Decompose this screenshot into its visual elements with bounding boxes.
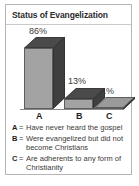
axis-label-a: A [36,111,43,121]
legend-equals-c: = [19,154,26,164]
bar-b-front-face [64,99,93,109]
legend-equals-b: = [19,134,26,144]
bar-a [24,48,53,109]
bar-chart: 86% 13% 1% A B C [6,25,131,119]
bar-value-label-a: 86% [29,26,47,36]
legend-item-a: A = Have never heard the gospel [12,123,130,133]
legend-text-a: Have never heard the gospel [26,123,130,133]
axis-label-b: B [76,111,83,121]
legend-key-b: B [12,134,19,144]
legend-key-c: C [12,154,19,164]
bar-value-label-b: 13% [68,76,86,86]
legend-item-c: C = Are adherents to any form of Christi… [12,154,130,173]
legend-equals-a: = [19,123,26,133]
legend-text-c: Are adherents to any form of Christianit… [26,154,130,173]
bar-b [64,99,93,109]
infographic-panel: Status of Evangelization 86% 13% 1% A B … [5,4,132,175]
legend-text-b: Were evangelized but did not become Chri… [26,134,130,153]
page-title: Status of Evangelization [12,10,108,20]
legend-item-b: B = Were evangelized but did not become … [12,134,130,153]
bar-a-front-face [24,48,53,109]
axis-baseline [20,109,124,110]
legend-key-a: A [12,123,19,133]
axis-label-c: C [106,111,113,121]
chart-legend: A = Have never heard the gospel B = Were… [12,123,130,174]
